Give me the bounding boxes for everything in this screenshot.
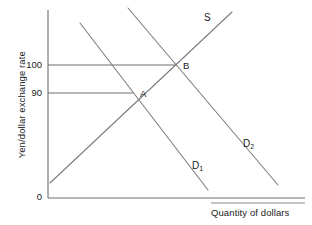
demand-curve-d1-label: D1: [192, 161, 203, 171]
demand-curve-d1: [80, 23, 208, 190]
demand-curve-d2: [128, 8, 278, 185]
demand-curve-d2-label: D2: [243, 139, 254, 149]
plot-area: [0, 0, 312, 225]
exchange-rate-supply-demand-figure: 100 90 0 Yen/dollar exchange rate Quanti…: [0, 0, 312, 225]
x-axis-title: Quantity of dollars: [211, 208, 289, 218]
equilibrium-point-a-label: A: [140, 89, 146, 99]
y-axis-title: Yen/dollar exchange rate: [17, 25, 27, 185]
y-axis-origin-label: 0: [14, 192, 42, 202]
demand-curve-d2-label-subscript: 2: [250, 143, 254, 150]
demand-curve-d1-label-subscript: 1: [199, 165, 203, 172]
supply-curve-label: S: [204, 13, 211, 23]
equilibrium-point-b-label: B: [183, 61, 189, 71]
